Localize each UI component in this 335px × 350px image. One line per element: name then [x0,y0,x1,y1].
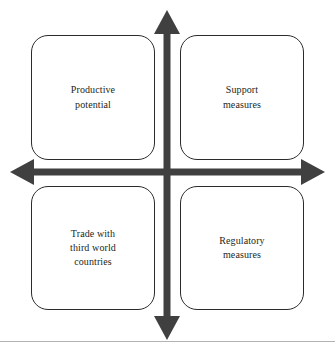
quadrant-label-trade-with-third-world-countries: Trade with third world countries [64,227,122,270]
quadrant-label-regulatory-measures: Regulatory measures [213,234,270,262]
quadrant-trade-with-third-world-countries: Trade with third world countries [31,186,155,310]
quadrant-diagram: Productive potential Support measures Tr… [0,0,335,350]
quadrant-support-measures: Support measures [180,35,304,160]
footer-divider [0,341,335,342]
quadrant-productive-potential: Productive potential [31,35,155,160]
quadrant-regulatory-measures: Regulatory measures [180,186,304,310]
quadrant-label-support-measures: Support measures [217,83,267,111]
quadrant-label-productive-potential: Productive potential [65,83,121,111]
